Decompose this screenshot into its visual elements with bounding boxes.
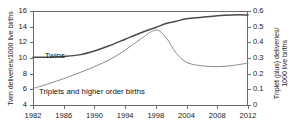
x-tick-mark bbox=[125, 106, 126, 109]
x-tick-label: 2004 bbox=[172, 111, 202, 120]
right-tick-mark bbox=[248, 11, 251, 12]
left-tick-label: 4 bbox=[11, 100, 27, 109]
x-tick-label: 1982 bbox=[18, 111, 48, 120]
right-tick-label: 0.4 bbox=[253, 37, 273, 46]
x-tick-mark bbox=[248, 106, 249, 109]
left-tick-label: 6 bbox=[11, 84, 27, 93]
x-tick-mark bbox=[64, 106, 65, 109]
series-line-triplets bbox=[33, 30, 248, 88]
bottom-axis-line bbox=[33, 105, 248, 106]
right-tick-label: 0.2 bbox=[253, 69, 273, 78]
right-tick-mark bbox=[248, 58, 251, 59]
right-tick-label: 0.6 bbox=[253, 6, 273, 15]
x-tick-label: 1986 bbox=[49, 111, 79, 120]
x-tick-mark bbox=[156, 106, 157, 109]
series-line-twins bbox=[33, 15, 248, 57]
series-annotation-twins: Twins bbox=[45, 51, 65, 60]
left-tick-mark bbox=[30, 11, 33, 12]
right-tick-label: 0.3 bbox=[253, 53, 273, 62]
left-tick-label: 14 bbox=[11, 22, 27, 31]
left-tick-mark bbox=[30, 58, 33, 59]
plot-area: Twins Triplets and higher order births 4… bbox=[33, 11, 248, 105]
x-tick-label: 1990 bbox=[79, 111, 109, 120]
x-tick-label: 1994 bbox=[110, 111, 140, 120]
x-tick-mark bbox=[187, 106, 188, 109]
x-tick-label: 1998 bbox=[141, 111, 171, 120]
right-tick-mark bbox=[248, 42, 251, 43]
x-tick-label: 2008 bbox=[202, 111, 232, 120]
left-tick-label: 10 bbox=[11, 53, 27, 62]
right-axis-title: Triplet (plus) deliveries/ 1000 live bir… bbox=[273, 15, 290, 111]
right-axis-title-line2: 1000 live births bbox=[280, 40, 289, 87]
x-tick-label: 2012 bbox=[233, 111, 263, 120]
left-tick-label: 8 bbox=[11, 69, 27, 78]
right-tick-mark bbox=[248, 74, 251, 75]
left-tick-label: 12 bbox=[11, 37, 27, 46]
twin-triplet-birth-rate-chart: Twin deliveries/1000 live births Triplet… bbox=[0, 0, 293, 129]
left-tick-mark bbox=[30, 27, 33, 28]
right-tick-label: 0.1 bbox=[253, 84, 273, 93]
right-tick-mark bbox=[248, 89, 251, 90]
left-tick-mark bbox=[30, 89, 33, 90]
right-tick-mark bbox=[248, 27, 251, 28]
left-tick-label: 16 bbox=[11, 6, 27, 15]
right-tick-label: 0.5 bbox=[253, 22, 273, 31]
left-tick-mark bbox=[30, 42, 33, 43]
series-annotation-triplets: Triplets and higher order births bbox=[39, 87, 145, 96]
x-tick-mark bbox=[33, 106, 34, 109]
x-tick-mark bbox=[217, 106, 218, 109]
x-tick-mark bbox=[94, 106, 95, 109]
left-tick-mark bbox=[30, 74, 33, 75]
right-tick-label: 0 bbox=[253, 100, 273, 109]
